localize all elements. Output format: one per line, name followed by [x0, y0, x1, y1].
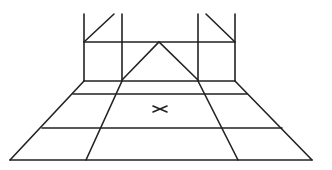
diagram-svg	[0, 0, 332, 170]
room-diagram	[0, 0, 332, 170]
floor-grid	[10, 81, 312, 160]
back-wall-gable	[122, 42, 198, 80]
right-pillar	[198, 14, 235, 81]
x-marker-icon	[153, 106, 167, 112]
left-pillar	[84, 14, 122, 81]
